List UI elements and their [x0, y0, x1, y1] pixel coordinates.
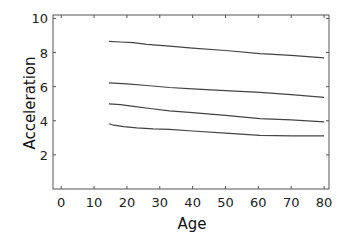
x-tick-label: 80 [316, 195, 333, 210]
series-line-1 [109, 41, 324, 58]
x-tick-label: 0 [57, 195, 65, 210]
x-tick-label: 60 [250, 195, 267, 210]
y-axis-label: Acceleration [21, 56, 39, 149]
y-tick-label: 4 [40, 114, 48, 129]
x-tick-label: 30 [152, 195, 169, 210]
x-tick-label: 10 [86, 195, 103, 210]
x-tick-label: 40 [184, 195, 201, 210]
y-axis-ticks: 246810 [31, 11, 329, 162]
x-axis-label: Age [177, 215, 206, 233]
line-chart: 01020304050607080 246810 Age Acceleratio… [0, 0, 347, 243]
series-layer [109, 41, 324, 136]
y-tick-label: 6 [40, 80, 48, 95]
y-tick-label: 8 [40, 46, 48, 61]
series-line-4 [109, 124, 324, 136]
x-tick-label: 70 [283, 195, 300, 210]
x-tick-label: 50 [217, 195, 234, 210]
series-line-2 [109, 83, 324, 98]
plot-frame [53, 15, 329, 189]
y-tick-label: 2 [40, 148, 48, 163]
y-tick-label: 10 [31, 11, 48, 26]
series-line-3 [109, 104, 324, 122]
x-tick-label: 20 [119, 195, 136, 210]
